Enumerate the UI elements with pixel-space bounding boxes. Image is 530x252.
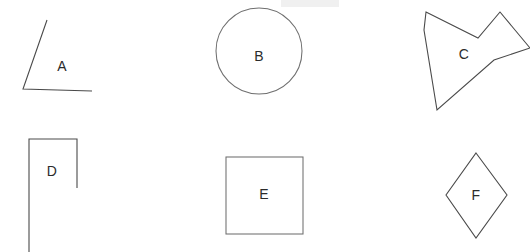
- shapes-svg: A B C D E F: [0, 0, 530, 252]
- open-rectangle-shape-d: [29, 139, 77, 252]
- concave-polygon-shape-c: [424, 12, 530, 110]
- shape-group-a: A: [23, 20, 92, 91]
- shape-label-d: D: [47, 163, 57, 179]
- shape-label-e: E: [259, 186, 269, 202]
- shape-group-b: B: [216, 8, 302, 94]
- shape-label-f: F: [472, 187, 481, 203]
- shape-group-e: E: [226, 157, 303, 234]
- shapes-worksheet-canvas: A B C D E F: [0, 0, 530, 252]
- shape-group-c: C: [424, 12, 530, 110]
- shape-group-d: D: [29, 139, 77, 252]
- shape-group-f: F: [446, 153, 507, 238]
- faint-gray-band-artifact: [281, 0, 339, 7]
- shape-label-b: B: [254, 48, 264, 64]
- angle-shape-a: [23, 20, 92, 91]
- shape-label-c: C: [459, 46, 469, 62]
- shape-label-a: A: [57, 58, 67, 74]
